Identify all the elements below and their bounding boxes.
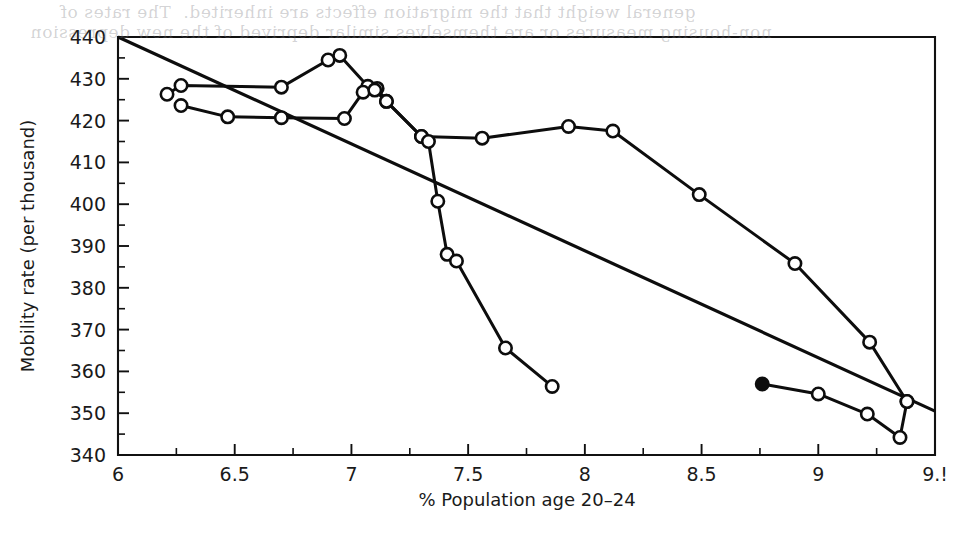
mobility-rate-scatter-line-chart: 66.577.588.599.! 34035036037038039040041… (0, 0, 976, 540)
figure-container: general weight that the migration effect… (0, 0, 976, 540)
trend-line-segment (118, 37, 935, 411)
series-line-lowest-branch (762, 384, 907, 438)
data-point-marker (338, 112, 350, 124)
y-tick-label: 400 (70, 193, 106, 215)
data-point-marker (812, 388, 824, 400)
data-point-marker (894, 431, 906, 443)
y-tick-label: 350 (70, 402, 106, 424)
data-point-marker (175, 79, 187, 91)
data-point-marker (175, 99, 187, 111)
data-point-marker (546, 380, 558, 392)
data-point-marker (222, 111, 234, 123)
x-tick-label: 8.5 (686, 463, 716, 485)
data-point-marker (693, 188, 705, 200)
x-tick-label: 6 (112, 463, 124, 485)
data-point-marker (499, 342, 511, 354)
data-point-marker (901, 395, 913, 407)
x-tick-label: 6.5 (220, 463, 250, 485)
y-tick-label: 440 (70, 26, 106, 48)
data-point-marker (450, 255, 462, 267)
regression-trend-line (118, 37, 935, 411)
data-point-marker (863, 336, 875, 348)
x-tick-label: 9 (812, 463, 824, 485)
data-point-marker (275, 81, 287, 93)
x-tick-label: 9.! (922, 463, 948, 485)
y-tick-label: 430 (70, 68, 106, 90)
data-point-marker (432, 195, 444, 207)
y-tick-label: 370 (70, 319, 106, 341)
data-point-marker (789, 257, 801, 269)
data-point-marker (861, 408, 873, 420)
y-axis-title: Mobility rate (per thousand) (17, 120, 38, 372)
x-axis-ticks (118, 444, 935, 455)
y-tick-label: 360 (70, 360, 106, 382)
y-axis-ticks (118, 37, 129, 455)
data-point-marker (380, 95, 392, 107)
y-tick-label: 340 (70, 444, 106, 466)
x-tick-label: 7.5 (453, 463, 483, 485)
y-axis-tick-labels: 340350360370380390400410420430440 (70, 26, 106, 466)
y-tick-label: 420 (70, 110, 106, 132)
series-line-lower-branch (181, 90, 552, 386)
y-tick-label: 390 (70, 235, 106, 257)
data-point-marker (756, 378, 768, 390)
data-point-marker (422, 135, 434, 147)
data-point-marker (275, 111, 287, 123)
y-tick-label: 380 (70, 277, 106, 299)
x-tick-label: 8 (579, 463, 591, 485)
x-axis-tick-labels: 66.577.588.599.! (112, 463, 948, 485)
y-tick-label: 410 (70, 151, 106, 173)
x-axis-title: % Population age 20–24 (418, 489, 635, 510)
data-point-marker (476, 132, 488, 144)
data-point-marker (607, 125, 619, 137)
data-point-marker (357, 86, 369, 98)
x-tick-label: 7 (345, 463, 357, 485)
data-point-marker (369, 84, 381, 96)
data-point-marker (562, 120, 574, 132)
data-point-marker (161, 88, 173, 100)
data-point-marker (334, 49, 346, 61)
